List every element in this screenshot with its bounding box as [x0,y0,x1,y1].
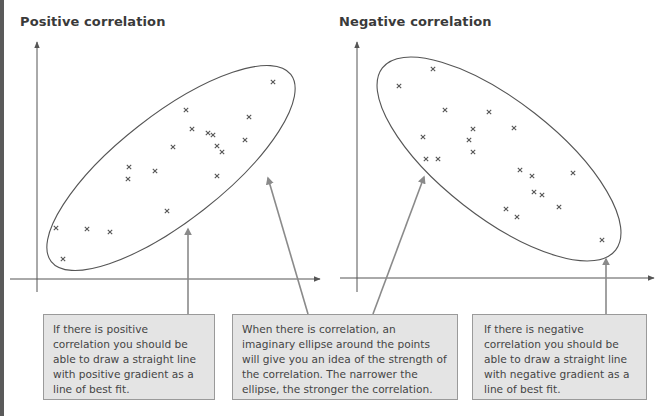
callout-ellipse-text: When there is correlation, an imaginary … [242,323,447,395]
scatter-point-x-marker [421,135,425,139]
scatter-point-x-marker [211,133,215,137]
scatter-point-x-marker [206,131,210,135]
negative-ellipse [347,22,652,296]
scatter-point-x-marker [467,138,471,142]
scatter-point-x-marker [471,127,475,131]
scatter-point-x-marker [487,110,491,114]
negative-scatter-points [397,67,604,242]
scatter-point-x-marker [215,174,219,178]
scatter-point-x-marker [153,169,157,173]
scatter-point-x-marker [126,177,130,181]
scatter-point-x-marker [54,226,58,230]
callout-negative-text: If there is negative correlation you sho… [484,323,629,395]
positive-chart-axes [10,42,320,292]
scatter-point-x-marker [397,84,401,88]
scatter-point-x-marker [127,165,131,169]
callout-positive: If there is positive correlation you sho… [43,314,215,400]
scatter-point-x-marker [504,207,508,211]
scatter-point-x-marker [436,157,440,161]
scatter-point-x-marker [443,108,447,112]
scatter-point-x-marker [220,150,224,154]
callout-positive-text: If there is positive correlation you sho… [53,323,196,395]
scatter-point-x-marker [108,230,112,234]
scatter-point-x-marker [471,150,475,154]
scatter-point-x-marker [424,157,428,161]
scatter-point-x-marker [530,174,534,178]
callout-negative: If there is negative correlation you sho… [472,314,647,400]
scatter-point-x-marker [171,145,175,149]
arrow-ellipse-left [268,178,308,314]
arrow-ellipse-right [373,177,424,314]
scatter-point-x-marker [190,127,194,131]
scatter-point-x-marker [557,205,561,209]
scatter-point-x-marker [271,80,275,84]
scatter-point-x-marker [165,209,169,213]
scatter-point-x-marker [532,190,536,194]
scatter-point-x-marker [184,108,188,112]
scatter-point-x-marker [515,215,519,219]
scatter-point-x-marker [540,193,544,197]
scatter-point-x-marker [600,238,604,242]
scatter-point-x-marker [243,138,247,142]
callout-ellipse: When there is correlation, an imaginary … [232,314,458,400]
negative-chart-axes [340,42,654,292]
scatter-point-x-marker [85,227,89,231]
scatter-point-x-marker [61,257,65,261]
scatter-point-x-marker [247,115,251,119]
scatter-point-x-marker [518,168,522,172]
scatter-point-x-marker [215,144,219,148]
positive-ellipse [19,33,324,304]
scatter-point-x-marker [431,67,435,71]
scatter-point-x-marker [512,126,516,130]
scatter-point-x-marker [571,171,575,175]
